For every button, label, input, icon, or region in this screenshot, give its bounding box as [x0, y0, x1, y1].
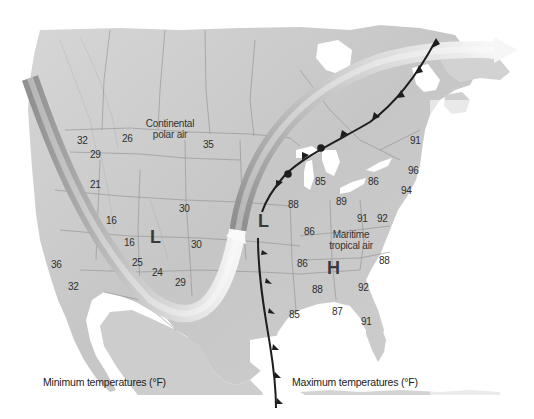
min-temp-label: 30: [179, 204, 190, 214]
map-graphic: [0, 0, 534, 419]
air-mass-label-continental-polar: Continental polar air: [135, 118, 205, 140]
max-temp-label: 94: [401, 186, 412, 196]
min-temp-label: 24: [152, 268, 163, 278]
max-temp-label: 91: [410, 136, 421, 146]
caption-minimum-temperatures: Minimum temperatures (°F): [43, 377, 166, 388]
high-pressure-southeast: H: [327, 259, 340, 277]
min-temp-label: 16: [106, 216, 117, 226]
min-temp-label: 16: [124, 238, 135, 248]
low-pressure-west: L: [150, 228, 161, 246]
max-temp-label: 86: [304, 227, 315, 237]
min-temp-label: 36: [51, 260, 62, 270]
caption-maximum-temperatures: Maximum temperatures (°F): [292, 377, 418, 388]
jet-arrowhead-east: [494, 37, 518, 63]
max-temp-label: 86: [297, 259, 308, 269]
weather-map-figure: Continental polar air Maritime tropical …: [0, 0, 534, 419]
air-mass-line2: tropical air: [321, 240, 381, 251]
max-temp-label: 86: [368, 177, 379, 187]
min-temp-label: 21: [90, 180, 101, 190]
max-temp-label: 88: [288, 200, 299, 210]
max-temp-label: 96: [408, 166, 419, 176]
max-temp-label: 91: [357, 214, 368, 224]
air-mass-line1: Maritime: [321, 229, 381, 240]
max-temp-label: 87: [332, 307, 343, 317]
max-temp-label: 89: [336, 197, 347, 207]
min-temp-label: 30: [191, 240, 202, 250]
max-temp-label: 88: [312, 285, 323, 295]
min-temp-label: 25: [132, 258, 143, 268]
min-temp-label: 29: [175, 278, 186, 288]
max-temp-label: 88: [379, 256, 390, 266]
air-mass-line2: polar air: [135, 129, 205, 140]
min-temp-label: 32: [77, 136, 88, 146]
max-temp-label: 85: [315, 177, 326, 187]
min-temp-label: 29: [90, 150, 101, 160]
max-temp-label: 92: [377, 214, 388, 224]
min-temp-label: 26: [122, 134, 133, 144]
max-temp-label: 91: [361, 317, 372, 327]
air-mass-line1: Continental: [135, 118, 205, 129]
min-temp-label: 32: [68, 282, 79, 292]
low-pressure-central: L: [258, 212, 269, 230]
min-temp-label: 35: [203, 140, 214, 150]
max-temp-label: 85: [289, 310, 300, 320]
air-mass-label-maritime-tropical: Maritime tropical air: [321, 229, 381, 251]
max-temp-label: 92: [358, 283, 369, 293]
